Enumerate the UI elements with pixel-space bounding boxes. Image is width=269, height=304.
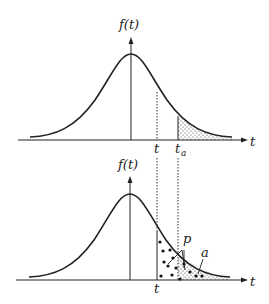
top-panel: f(t) t t t a: [18, 17, 256, 158]
diagram-canvas: f(t) t t t a: [0, 0, 269, 304]
bottom-tick-t-label: t: [154, 281, 160, 296]
top-tick-t-label: t: [154, 141, 160, 156]
bottom-y-axis-label: f(t): [117, 157, 138, 172]
top-x-axis-label: t: [250, 134, 256, 149]
bottom-x-axis-label: t: [250, 274, 256, 289]
bottom-y-axis-arrow-icon: [128, 176, 133, 183]
label-p: p: [183, 231, 192, 246]
bottom-panel: f(t) t t p a: [16, 157, 256, 296]
top-tick-ta-subscript: a: [181, 148, 186, 158]
label-a: a: [201, 245, 209, 260]
top-y-axis-label: f(t): [118, 17, 139, 32]
bottom-x-axis-arrow-icon: [241, 278, 248, 283]
top-x-axis-arrow-icon: [241, 138, 248, 143]
top-y-axis-arrow-icon: [129, 37, 134, 44]
